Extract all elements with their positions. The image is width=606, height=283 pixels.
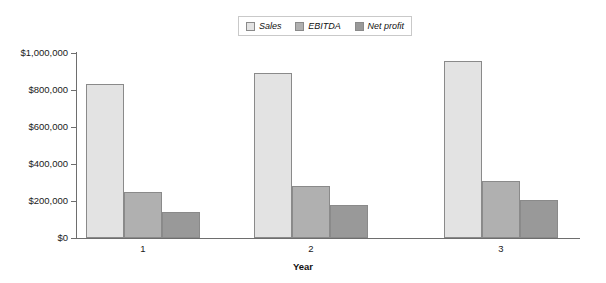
bar [162,212,200,238]
y-tick-mark [71,53,76,54]
legend-label: Sales [259,22,282,31]
x-axis-title: Year [0,262,606,272]
y-tick-mark [71,238,76,239]
legend-label: Net profit [368,22,405,31]
bar [254,73,292,238]
bar [520,200,558,238]
y-tick-mark [71,164,76,165]
y-tick-mark [71,90,76,91]
legend-item[interactable]: Sales [244,22,284,31]
plot-area: $0$200,000$400,000$600,000$800,000$1,000… [76,53,580,238]
legend-swatch-icon [355,22,364,31]
y-tick-mark [71,201,76,202]
y-tick-mark [71,127,76,128]
y-tick-label: $600,000 [28,122,68,132]
y-tick-label: $0 [57,233,68,243]
y-tick-label: $1,000,000 [20,48,68,58]
x-axis-line [76,238,580,239]
bar-chart: SalesEBITDANet profit $0$200,000$400,000… [0,0,606,283]
bar [86,84,124,238]
legend-swatch-icon [246,22,255,31]
bar [482,181,520,238]
y-tick-label: $400,000 [28,159,68,169]
bar [330,205,368,238]
legend-swatch-icon [295,22,304,31]
bar [124,192,162,238]
x-axis-label: 3 [498,244,503,254]
y-tick-label: $800,000 [28,85,68,95]
x-axis-label: 1 [140,244,145,254]
legend-item[interactable]: Net profit [353,22,407,31]
chart-legend: SalesEBITDANet profit [238,16,412,36]
bar [292,186,330,238]
legend-item[interactable]: EBITDA [293,22,343,31]
y-tick-label: $200,000 [28,196,68,206]
legend-label: EBITDA [308,22,341,31]
x-axis-label: 2 [308,244,313,254]
bar [444,61,482,238]
